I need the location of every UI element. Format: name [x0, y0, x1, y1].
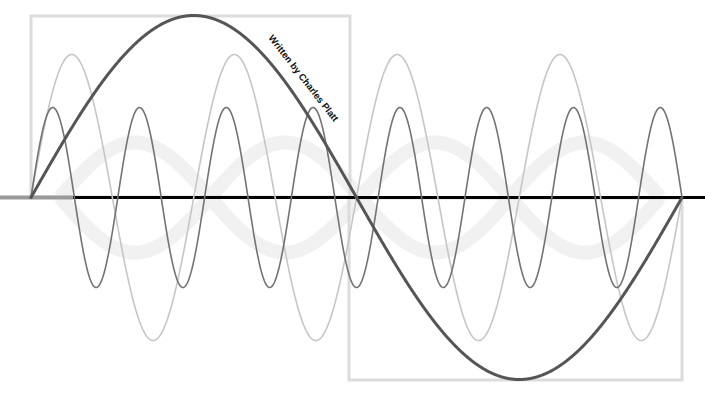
sine-wave-diagram: Written by Charles Platt [0, 0, 705, 395]
diagram-canvas: Written by Charles Platt [0, 0, 705, 395]
